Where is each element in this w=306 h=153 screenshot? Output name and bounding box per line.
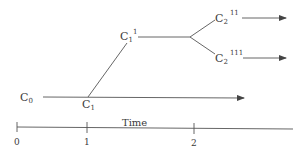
fork-up-line: [190, 20, 215, 37]
tick-label-0: 0: [14, 137, 20, 147]
branching-diagram: C0 C1 C11 C211 C2111 Time 0 1 2: [0, 0, 306, 153]
time-axis: [17, 127, 293, 129]
node-c1: C1: [82, 98, 95, 112]
node-c0: C0: [20, 91, 33, 105]
node-c2-11: C211: [215, 9, 239, 26]
tick-label-2: 2: [191, 138, 197, 148]
axis-label-time: Time: [122, 117, 147, 128]
node-c2-111: C2111: [215, 49, 243, 66]
tick-label-1: 1: [84, 137, 90, 147]
node-c1-1: C11: [120, 28, 137, 44]
c0-line-arrow: [43, 97, 244, 98]
c1-branch-line: [88, 43, 127, 97]
fork-down-line: [190, 37, 215, 54]
